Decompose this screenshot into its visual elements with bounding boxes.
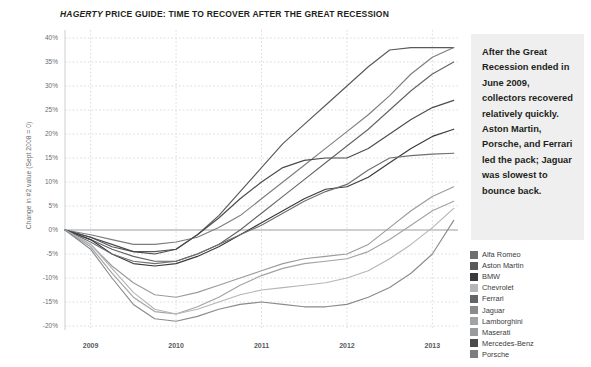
legend-swatch-icon	[470, 328, 478, 336]
legend-item-label: BMW	[482, 272, 500, 281]
series-line-aston-martin	[65, 48, 454, 252]
series-line-bmw	[65, 129, 454, 266]
legend-item-mercedes-benz[interactable]: Mercedes-Benz	[470, 338, 586, 349]
x-axis-tick-label: 2011	[254, 342, 269, 348]
y-axis-tick-label: 20%	[45, 130, 58, 137]
legend-item-chevrolet[interactable]: Chevrolet	[470, 282, 586, 293]
callout-text: After the Great Recession ended in June …	[482, 47, 573, 196]
y-axis-tick-label: 40%	[45, 34, 58, 41]
y-axis-tick-label: -10%	[43, 274, 58, 281]
page-title: HAGERTY PRICE GUIDE: TIME TO RECOVER AFT…	[60, 9, 389, 19]
legend-item-ferrari[interactable]: Ferrari	[470, 293, 586, 304]
y-axis-title: Change in #2 value (Sept 2008 = 0)	[25, 86, 32, 266]
brand-name: HAGERTY	[60, 9, 103, 19]
legend-swatch-icon	[470, 295, 478, 303]
title-rest: PRICE GUIDE: TIME TO RECOVER AFTER THE G…	[103, 9, 389, 19]
y-axis-tick-label: 25%	[45, 106, 58, 113]
legend-item-jaguar[interactable]: Jaguar	[470, 304, 586, 315]
legend-item-label: Ferrari	[482, 294, 504, 303]
legend-swatch-icon	[470, 317, 478, 325]
legend-item-label: Chevrolet	[482, 283, 514, 292]
chart-page: HAGERTY PRICE GUIDE: TIME TO RECOVER AFT…	[0, 0, 591, 367]
y-axis-tick-label: 0%	[49, 226, 59, 233]
x-axis-tick-label: 2009	[83, 342, 99, 348]
legend-swatch-icon	[470, 339, 478, 347]
chart-legend: Alfa RomeoAston MartinBMWChevroletFerrar…	[470, 249, 586, 360]
legend-item-maserati[interactable]: Maserati	[470, 327, 586, 338]
y-axis-tick-label: -20%	[43, 322, 58, 329]
y-axis-tick-label: -15%	[43, 298, 58, 305]
y-axis-tick-label: 35%	[45, 58, 58, 65]
x-axis-tick-label: 2010	[168, 342, 184, 348]
legend-item-bmw[interactable]: BMW	[470, 271, 586, 282]
legend-item-label: Porsche	[482, 350, 509, 359]
legend-swatch-icon	[470, 306, 478, 314]
series-line-mercedes-benz	[65, 100, 454, 254]
legend-item-label: Aston Martin	[482, 261, 524, 270]
legend-swatch-icon	[470, 284, 478, 292]
x-axis-tick-label: 2012	[339, 342, 355, 348]
callout-box: After the Great Recession ended in June …	[471, 34, 584, 240]
y-axis-tick-label: 10%	[45, 178, 58, 185]
legend-swatch-icon	[470, 350, 478, 358]
y-axis-tick-label: -5%	[46, 250, 58, 257]
legend-swatch-icon	[470, 251, 478, 259]
legend-item-alfa-romeo[interactable]: Alfa Romeo	[470, 249, 586, 260]
legend-item-lamborghini[interactable]: Lamborghini	[470, 316, 586, 327]
plot-area: Change in #2 value (Sept 2008 = 0) 40%35…	[0, 22, 465, 348]
y-axis-tick-label: 15%	[45, 154, 58, 161]
series-line-ferrari	[65, 62, 454, 261]
line-chart-svg: 40%35%30%25%20%15%10%5%0%-5%-10%-15%-20%…	[0, 22, 465, 348]
legend-item-label: Lamborghini	[482, 317, 523, 326]
y-axis-tick-label: 5%	[49, 202, 59, 209]
legend-item-label: Alfa Romeo	[482, 250, 521, 259]
legend-swatch-icon	[470, 262, 478, 270]
legend-swatch-icon	[470, 273, 478, 281]
legend-item-label: Jaguar	[482, 306, 505, 315]
legend-item-label: Mercedes-Benz	[482, 339, 534, 348]
y-axis-tick-label: 30%	[45, 82, 58, 89]
legend-item-porsche[interactable]: Porsche	[470, 349, 586, 360]
x-axis-tick-label: 2013	[425, 342, 441, 348]
legend-item-aston-martin[interactable]: Aston Martin	[470, 260, 586, 271]
legend-item-label: Maserati	[482, 328, 510, 337]
